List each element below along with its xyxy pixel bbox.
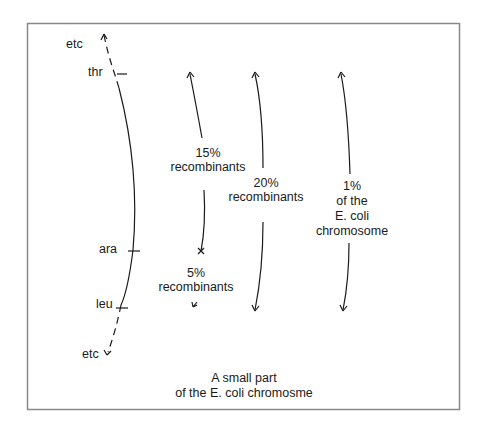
thr-leu-percent: 20% bbox=[253, 176, 278, 190]
caption-line1: A small part bbox=[211, 371, 277, 385]
fraction-line2: of the bbox=[336, 194, 367, 208]
arrow-down-icon bbox=[104, 350, 111, 355]
arrow-down-icon bbox=[192, 302, 197, 307]
bottom-etc-label: etc bbox=[82, 347, 99, 361]
thr-ara-percent: 15% bbox=[195, 146, 220, 160]
thr-ara-label: recombinants bbox=[170, 160, 245, 174]
fraction-percent: 1% bbox=[343, 179, 361, 193]
genetic-map-diagram: etc thr ara leu etc 15% recombinants 5% … bbox=[0, 0, 484, 436]
leu-label: leu bbox=[96, 297, 113, 311]
ara-leu-label: recombinants bbox=[158, 280, 233, 294]
ara-label: ara bbox=[99, 242, 117, 256]
caption-line2: of the E. coli chromosme bbox=[175, 386, 313, 400]
ara-leu-percent: 5% bbox=[187, 266, 205, 280]
fraction-line3: E. coli bbox=[335, 209, 369, 223]
fraction-line4: chromosome bbox=[316, 224, 388, 238]
ara-leu-distance bbox=[192, 302, 197, 307]
top-etc-label: etc bbox=[66, 37, 83, 51]
thr-label: thr bbox=[88, 65, 103, 79]
thr-leu-label: recombinants bbox=[228, 190, 303, 204]
